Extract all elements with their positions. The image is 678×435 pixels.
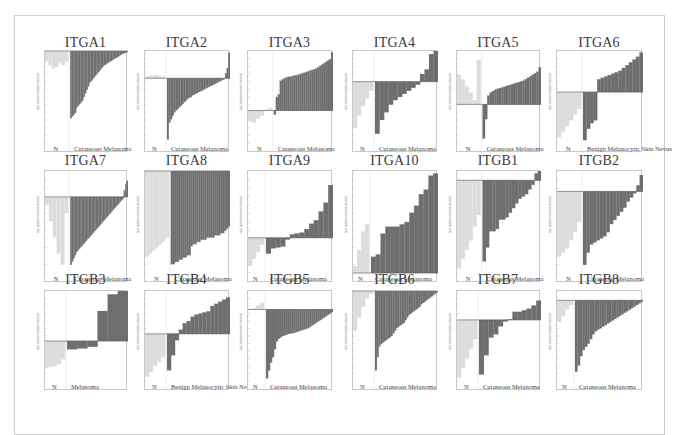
- plot-area: NCutaneous Melanoma: [352, 290, 437, 390]
- y-axis-label: log2 median-centered intensity: [136, 196, 140, 233]
- chart-panel-itga6: ITGA6log2 median-centered intensityNBeni…: [544, 35, 644, 154]
- chart-panel-itga8: ITGA8log2 median-centered intensityNCuta…: [132, 153, 231, 284]
- chart-title: ITGB6: [352, 272, 437, 288]
- y-axis-label: log2 median-centered intensity: [36, 73, 40, 110]
- x-group-label-normal: N: [54, 145, 59, 152]
- chart-panel-itgb8: ITGB8log2 median-centered intensityNCuta…: [544, 272, 644, 392]
- chart-title: ITGA5: [456, 35, 540, 51]
- chart-panel-itgb2: ITGB2log2 median-centered intensityNCuta…: [544, 153, 644, 284]
- y-axis-label: log2 median-centered intensity: [344, 73, 348, 110]
- y-axis-label: log2 median-centered intensity: [344, 196, 348, 233]
- chart-panel-itga3: ITGA3log2 median-centered intensityNCuta…: [235, 35, 334, 154]
- x-group-label-tumor: Benign Melanocytic Skin Nevus: [587, 145, 672, 152]
- chart-panel-itga2: ITGA2log2 median-centered intensityNCuta…: [132, 35, 231, 154]
- chart-panel-itga10: ITGA10log2 median-centered intensityNCut…: [340, 153, 439, 284]
- y-axis-label: log2 median-centered intensity: [448, 313, 452, 350]
- y-axis-label: log2 median-centered intensity: [36, 196, 40, 233]
- x-group-label-tumor: Cutaneous Melanoma: [379, 383, 436, 390]
- y-axis-label: log2 median-centered intensity: [548, 313, 552, 350]
- plot-area: NCutaneous Melanoma: [556, 170, 642, 282]
- plot-area: NCutaneous Melanoma: [352, 170, 437, 282]
- x-group-label-normal: N: [562, 383, 567, 390]
- x-group-label-normal: N: [566, 145, 571, 152]
- x-group-label-tumor: Cutaneous Melanoma: [270, 383, 327, 390]
- x-group-label-tumor: Cutaneous Melanoma: [487, 145, 544, 152]
- chart-title: ITGB2: [556, 153, 642, 169]
- chart-title: ITGA7: [44, 153, 127, 169]
- plot-area: NCutaneous Melanoma: [44, 170, 127, 282]
- chart-panel-itga4: ITGA4log2 median-centered intensityNCuta…: [340, 35, 439, 154]
- chart-title: ITGA6: [556, 35, 642, 51]
- y-axis-label: log2 median-centered intensity: [136, 73, 140, 110]
- x-group-label-tumor: Cutaneous Melanoma: [579, 383, 636, 390]
- x-group-label-normal: N: [466, 145, 471, 152]
- chart-title: ITGB8: [556, 272, 642, 288]
- y-axis-label: log2 median-centered intensity: [448, 196, 452, 233]
- plot-area: NCutaneous Melanoma: [456, 50, 540, 152]
- plot-area: NCutaneous Melanoma: [247, 50, 332, 152]
- plot-area: NCutaneous Melanoma: [456, 170, 540, 282]
- y-axis-label: log2 median-centered intensity: [344, 313, 348, 350]
- chart-title: ITGA10: [352, 153, 437, 169]
- y-axis-label: log2 median-centered intensity: [548, 196, 552, 233]
- chart-panel-itga7: ITGA7log2 median-centered intensityNCuta…: [32, 153, 129, 284]
- x-group-label-normal: N: [464, 383, 469, 390]
- chart-title: ITGB7: [456, 272, 540, 288]
- x-group-label-normal: N: [360, 383, 365, 390]
- y-axis-label: log2 median-centered intensity: [136, 313, 140, 350]
- y-axis-label: log2 median-centered intensity: [239, 196, 243, 233]
- chart-title: ITGA4: [352, 35, 437, 51]
- x-group-label-normal: N: [257, 145, 262, 152]
- chart-panel-itga9: ITGA9log2 median-centered intensityNCuta…: [235, 153, 334, 284]
- plot-area: NCutaneous Melanoma: [556, 290, 642, 390]
- chart-panel-itgb7: ITGB7log2 median-centered intensityNCuta…: [444, 272, 542, 392]
- y-axis-label: log2 median-centered intensity: [548, 73, 552, 110]
- y-axis-label: log2 median-centered intensity: [239, 313, 243, 350]
- chart-title: ITGB5: [247, 272, 332, 288]
- chart-title: ITGB1: [456, 153, 540, 169]
- x-group-label-normal: N: [360, 145, 365, 152]
- x-group-label-normal: N: [152, 145, 157, 152]
- chart-panel-itga5: ITGA5log2 median-centered intensityNCuta…: [444, 35, 542, 154]
- plot-area: NBenign Melanocytic Skin Nevus: [144, 290, 229, 390]
- chart-title: ITGA2: [144, 35, 229, 51]
- chart-title: ITGA1: [44, 35, 127, 51]
- plot-area: NCutaneous Melanoma: [144, 50, 229, 152]
- x-group-label-tumor: Cutaneous Melanoma: [74, 145, 131, 152]
- x-group-label-normal: N: [52, 383, 57, 390]
- x-group-label-tumor: Cutaneous Melanoma: [171, 145, 228, 152]
- plot-area: NCutaneous Melanoma: [44, 50, 127, 152]
- x-group-label-tumor: Melanoma: [71, 383, 99, 390]
- x-group-label-normal: N: [152, 383, 157, 390]
- x-group-label-tumor: Cutaneous Melanoma: [278, 145, 335, 152]
- chart-panel-itgb4: ITGB4log2 median-centered intensityNBeni…: [132, 272, 231, 392]
- chart-title: ITGB4: [144, 272, 229, 288]
- chart-panel-itga1: ITGA1log2 median-centered intensityNCuta…: [32, 35, 129, 154]
- chart-title: ITGA8: [144, 153, 229, 169]
- chart-panel-itgb1: ITGB1log2 median-centered intensityNCuta…: [444, 153, 542, 284]
- chart-panel-itgb3: ITGB3log2 median-centered intensityNMela…: [32, 272, 129, 392]
- x-group-label-normal: N: [253, 383, 258, 390]
- chart-title: ITGB3: [44, 272, 127, 288]
- y-axis-label: log2 median-centered intensity: [448, 73, 452, 110]
- y-axis-label: log2 median-centered intensity: [239, 73, 243, 110]
- plot-area: NCutaneous Melanoma: [456, 290, 540, 390]
- plot-area: NMelanoma: [44, 290, 127, 390]
- x-group-label-tumor: Cutaneous Melanoma: [379, 145, 436, 152]
- chart-panel-itgb6: ITGB6log2 median-centered intensityNCuta…: [340, 272, 439, 392]
- chart-title: ITGA3: [247, 35, 332, 51]
- chart-panel-itgb5: ITGB5log2 median-centered intensityNCuta…: [235, 272, 334, 392]
- plot-area: NBenign Melanocytic Skin Nevus: [556, 50, 642, 152]
- plot-area: NCutaneous Melanoma: [144, 170, 229, 282]
- x-group-label-tumor: Cutaneous Melanoma: [483, 383, 540, 390]
- plot-area: NCutaneous Melanoma: [247, 170, 332, 282]
- y-axis-label: log2 median-centered intensity: [36, 313, 40, 350]
- chart-title: ITGA9: [247, 153, 332, 169]
- plot-area: NCutaneous Melanoma: [247, 290, 332, 390]
- plot-area: NCutaneous Melanoma: [352, 50, 437, 152]
